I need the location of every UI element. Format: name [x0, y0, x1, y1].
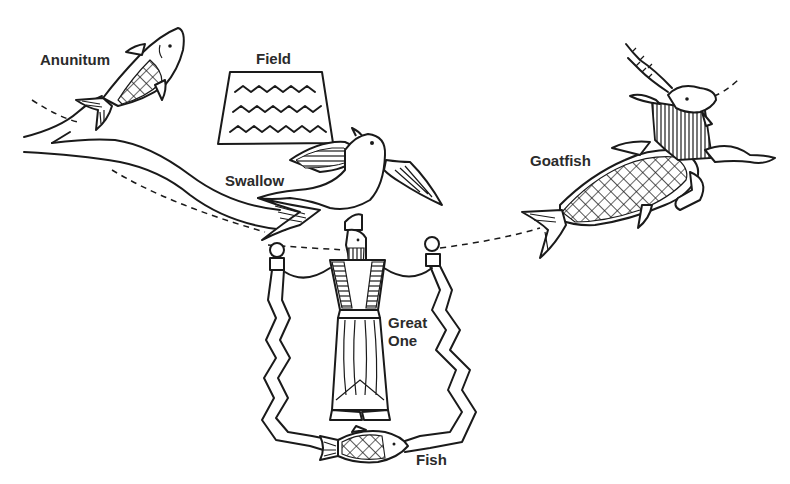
label-swallow: Swallow	[225, 172, 284, 189]
label-great-one-line2: One	[388, 332, 417, 349]
label-field: Field	[256, 50, 291, 67]
river-stream	[24, 96, 285, 230]
label-anunitum: Anunitum	[40, 51, 110, 68]
goatfish-figure	[522, 44, 775, 258]
diagram-artwork	[0, 0, 790, 484]
constellation-diagram: Anunitum Field Swallow Goatfish Great On…	[0, 0, 790, 484]
label-great-one-line1: Great	[388, 314, 427, 331]
label-fish: Fish	[416, 451, 447, 468]
small-fish-figure	[320, 426, 408, 462]
field-figure	[218, 72, 333, 144]
anunitum-fish-figure	[76, 28, 184, 130]
label-goatfish: Goatfish	[530, 152, 591, 169]
